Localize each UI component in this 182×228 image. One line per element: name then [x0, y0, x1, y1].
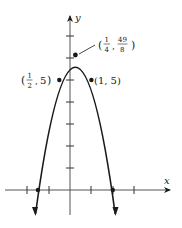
svg-text:1: 1: [105, 36, 109, 44]
x-axis-label: x: [164, 175, 170, 186]
parabola-curve: [36, 67, 116, 214]
svg-text:,: ,: [112, 41, 115, 51]
point-right: [89, 78, 93, 82]
svg-text:5: 5: [40, 75, 46, 86]
svg-text:8: 8: [120, 46, 124, 54]
svg-text:(: (: [98, 39, 102, 52]
parabola-graph: y x ( 1 4 , 49 8 ) ( 1 2 , 5 ) (1, 5): [0, 0, 182, 228]
svg-text:): ): [47, 74, 51, 87]
point-left: [57, 78, 61, 82]
svg-text:(: (: [21, 74, 25, 87]
vertex-label: ( 1 4 , 49 8 ): [98, 36, 135, 54]
svg-text:,: ,: [35, 76, 38, 86]
right-point-label: (1, 5): [94, 75, 121, 86]
curve-arrow-left-icon: [32, 207, 38, 216]
point-vertex: [73, 53, 78, 58]
svg-text:): ): [131, 39, 135, 52]
vertex-leader-line: [79, 45, 95, 54]
svg-text:49: 49: [118, 36, 127, 44]
svg-text:2: 2: [28, 82, 32, 90]
x-intercept-right: [111, 188, 115, 192]
left-point-label: ( 1 2 , 5 ): [21, 72, 51, 90]
x-intercept-left: [36, 188, 40, 192]
svg-text:1: 1: [28, 72, 32, 80]
curve-arrow-right-icon: [113, 207, 119, 216]
y-axis-label: y: [74, 12, 81, 23]
svg-text:4: 4: [105, 46, 110, 54]
